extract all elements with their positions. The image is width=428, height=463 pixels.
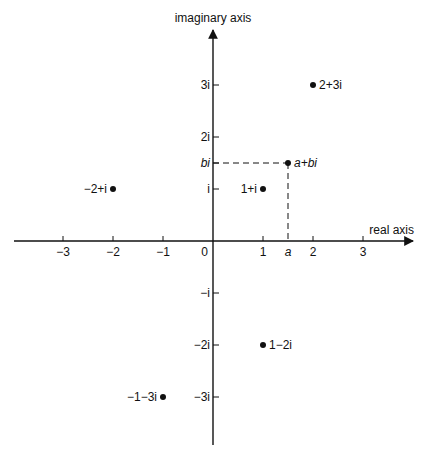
x-ticks: −3−2−1123	[56, 236, 367, 259]
point-label: 1−2i	[269, 338, 292, 352]
real-axis-label: real axis	[369, 223, 414, 237]
origin-label: 0	[201, 245, 208, 259]
a-plus-bi-projection: bia	[201, 156, 292, 259]
imaginary-axis-label: imaginary axis	[175, 11, 252, 25]
y-tick-label: −3i	[194, 390, 210, 404]
x-tick-label: 1	[260, 245, 267, 259]
x-tick-label: −1	[156, 245, 170, 259]
y-tick-label: 3i	[201, 78, 210, 92]
x-tick-label: −2	[106, 245, 120, 259]
point-label: a+bi	[294, 156, 317, 170]
x-tick-label: 3	[360, 245, 367, 259]
point-dot	[160, 394, 166, 400]
complex-plane: real axis imaginary axis 0 −3−2−1123 3i2…	[0, 0, 428, 463]
point-label: 1+i	[241, 182, 257, 196]
point-dot	[310, 82, 316, 88]
x-tick-label: −3	[56, 245, 70, 259]
point-dot	[260, 186, 266, 192]
y-tick-label: −i	[200, 286, 210, 300]
axes: real axis imaginary axis 0	[14, 11, 414, 445]
y-tick-label: i	[207, 182, 210, 196]
x-tick-label: 2	[310, 245, 317, 259]
bi-label: bi	[201, 156, 211, 170]
a-label: a	[285, 245, 292, 259]
point-dot	[110, 186, 116, 192]
point-label: 2+3i	[319, 78, 342, 92]
y-tick-label: 2i	[201, 130, 210, 144]
point-dot	[285, 160, 291, 166]
point-label: −2+i	[84, 182, 107, 196]
y-tick-label: −2i	[194, 338, 210, 352]
point-label: −1−3i	[127, 390, 157, 404]
point-dot	[260, 342, 266, 348]
